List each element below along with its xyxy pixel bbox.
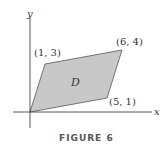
vertex-label-1-3: (1, 3): [34, 47, 61, 58]
vertex-label-5-1: (5, 1): [109, 96, 136, 107]
figure-caption: FIGURE 6: [59, 133, 114, 143]
figure-canvas: y x (1, 3) (6, 4) (5, 1) D FIGURE 6: [0, 0, 167, 145]
vertex-label-6-4: (6, 4): [116, 36, 143, 47]
x-axis-label: x: [154, 106, 160, 117]
y-axis-label: y: [26, 8, 33, 19]
region-label: D: [70, 76, 80, 89]
